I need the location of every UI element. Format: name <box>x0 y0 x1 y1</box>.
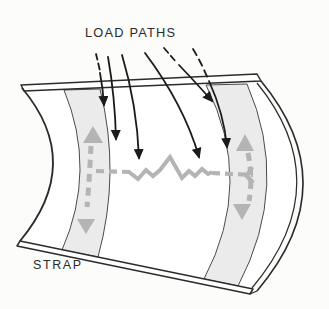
load-path-arrow-5-dash <box>164 48 177 63</box>
load-paths-label: LOAD PATHS <box>85 25 176 40</box>
load-path-arrow-1-dash <box>96 54 100 71</box>
load-path-arrow-6-dash <box>193 49 208 79</box>
strap-label: STRAP <box>33 258 83 272</box>
diagram-canvas: LOAD PATHS STRAP <box>0 0 329 309</box>
tear-strap-diagram: LOAD PATHS STRAP <box>0 0 329 309</box>
crack-dash-left <box>96 171 130 172</box>
